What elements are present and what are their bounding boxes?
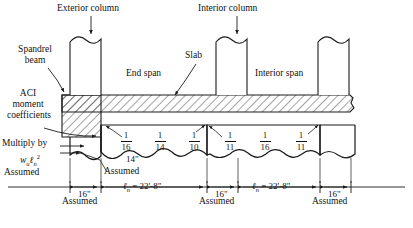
coefficient-interior-3-denominator: 11 — [292, 143, 310, 153]
label-end-span: End span — [126, 68, 161, 79]
dimension-col-width-3: 16" — [328, 189, 341, 199]
coefficient-interior-3: 1 11 — [292, 131, 310, 152]
clear-span-value-1: = 22'-8" — [132, 181, 161, 191]
coefficient-end-3-numerator: 1 — [185, 131, 203, 141]
label-aci-line2: moment — [2, 99, 54, 110]
coefficient-end-1-numerator: 1 — [117, 131, 135, 141]
dimension-col-width-1: 16" — [78, 189, 91, 199]
coefficient-end-2-numerator: 1 — [151, 131, 169, 141]
label-spandrel-line2: beam — [8, 55, 62, 66]
label-multiply-by: Multiply by — [2, 138, 47, 149]
moment-box-right-partial — [320, 125, 355, 158]
label-slab: Slab — [185, 50, 202, 61]
coefficient-interior-2: 1 16 — [256, 131, 274, 152]
dimension-col-width-2: 16" — [215, 189, 228, 199]
spandrel-moment-curve — [70, 137, 101, 160]
dimension-clear-span-2: ℓn = 22'-8" — [252, 181, 290, 193]
assumed-above-span: Assumed — [104, 166, 139, 177]
coefficient-end-2: 1 14 — [151, 131, 169, 152]
coefficient-end-1-denominator: 16 — [117, 143, 135, 153]
symbol-ln-sup: 2 — [37, 153, 40, 160]
label-interior-column: Interior column — [198, 3, 257, 14]
coefficient-interior-2-denominator: 16 — [256, 143, 274, 153]
figure-canvas — [0, 0, 413, 228]
coefficient-end-2-denominator: 14 — [151, 143, 169, 153]
coefficient-interior-1-denominator: 11 — [221, 143, 239, 153]
assumed-left-of-multiply: Assumed — [4, 167, 39, 178]
coefficient-end-3-denominator: 10 — [185, 143, 203, 153]
coefficient-interior-3-numerator: 1 — [292, 131, 310, 141]
clear-span-sub-2: n — [256, 186, 259, 193]
exterior-column — [70, 37, 101, 95]
coefficient-end-3: 1 10 — [185, 131, 203, 152]
label-aci-line3: coefficients — [0, 110, 58, 121]
label-spandrel-line1: Spandrel — [8, 44, 62, 55]
coefficient-interior-1-numerator: 1 — [221, 131, 239, 141]
label-interior-span: Interior span — [255, 68, 303, 79]
slab-hatched-band — [62, 95, 354, 112]
symbol-ln-sub: n — [34, 160, 37, 167]
interior-column-2 — [318, 37, 349, 95]
spandrel-beam-block — [62, 95, 101, 137]
dimension-clear-span-1: ℓn = 22'-8" — [123, 181, 161, 193]
interior-column-1 — [216, 37, 247, 95]
label-exterior-column: Exterior column — [57, 3, 119, 14]
coefficient-interior-2-numerator: 1 — [256, 131, 274, 141]
clear-span-sub-1: n — [127, 186, 130, 193]
dimension-line — [8, 158, 405, 193]
clear-span-value-2: = 22'-8" — [261, 181, 290, 191]
dimension-beam-depth: 14" — [126, 154, 139, 164]
coefficient-end-1: 1 16 — [117, 131, 135, 152]
coefficient-interior-1: 1 11 — [221, 131, 239, 152]
leader-slab — [175, 64, 196, 95]
label-aci-line1: ACI — [2, 88, 54, 99]
aci-moment-coefficient-diagram: Exterior column Interior column Spandrel… — [0, 0, 413, 228]
